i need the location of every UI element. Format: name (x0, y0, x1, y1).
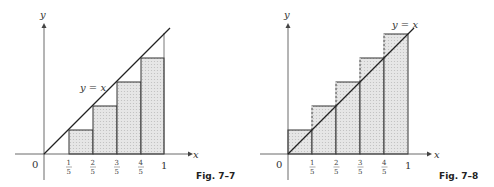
x-axis-label: x (193, 149, 199, 160)
y-axis-label: y (283, 9, 290, 20)
tick-numerator: 2 (91, 159, 95, 167)
origin-label: 0 (32, 159, 38, 170)
x-axis-label: x (434, 149, 440, 160)
rectangle-5 (384, 34, 408, 154)
figure-canvas: y x 0 y = x 1 5 2 5 3 5 4 5 1 Fig. 7–7 (0, 0, 494, 187)
tick-denominator: 5 (310, 168, 314, 176)
rectangle-2 (69, 130, 93, 154)
tick-numerator: 2 (334, 159, 338, 167)
rectangle-3 (336, 82, 360, 154)
tick-label-one: 1 (161, 160, 167, 171)
tick-numerator: 3 (358, 159, 362, 167)
figure-caption: Fig. 7–8 (439, 171, 478, 181)
tick-numerator: 3 (115, 159, 119, 167)
rectangle-3 (93, 106, 117, 154)
figure-7-7: y x 0 y = x 1 5 2 5 3 5 4 5 1 Fig. 7–7 (15, 9, 235, 181)
tick-denominator: 5 (67, 168, 71, 176)
tick-numerator: 1 (310, 159, 314, 167)
y-axis-arrow-icon (286, 23, 291, 28)
rectangle-5 (141, 58, 164, 154)
tick-numerator: 1 (67, 159, 71, 167)
tick-denominator: 5 (358, 168, 362, 176)
tick-label-one: 1 (405, 160, 411, 171)
rectangle-2 (312, 106, 336, 154)
origin-label: 0 (276, 159, 282, 170)
x-axis-arrow-icon (427, 152, 432, 157)
tick-denominator: 5 (139, 168, 143, 176)
curve-label: y = x (79, 82, 106, 93)
tick-numerator: 4 (382, 159, 387, 167)
tick-denominator: 5 (91, 168, 95, 176)
lower-sum-rectangles (69, 58, 164, 154)
tick-denominator: 5 (115, 168, 119, 176)
rectangle-4 (360, 58, 384, 154)
rectangle-4 (117, 82, 141, 154)
y-axis-arrow-icon (42, 23, 47, 28)
figure-caption: Fig. 7–7 (196, 171, 235, 181)
tick-numerator: 4 (139, 159, 144, 167)
y-axis-label: y (39, 9, 46, 20)
tick-denominator: 5 (334, 168, 338, 176)
curve-label: y = x (391, 19, 418, 30)
tick-denominator: 5 (382, 168, 386, 176)
figure-7-8: y x 0 y = x 1 5 2 5 3 5 4 5 1 Fig. 7–8 (260, 9, 478, 181)
